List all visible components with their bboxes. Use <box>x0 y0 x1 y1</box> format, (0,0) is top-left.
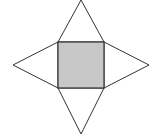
bottom-triangle-face <box>58 88 104 134</box>
square-base <box>58 42 104 88</box>
top-triangle-face <box>58 0 104 42</box>
pyramid-net-diagram <box>0 0 155 139</box>
left-triangle-face <box>13 42 58 88</box>
right-triangle-face <box>104 42 149 88</box>
